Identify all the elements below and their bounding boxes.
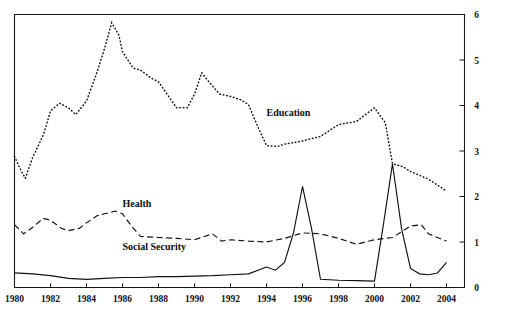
plot-frame bbox=[15, 15, 465, 288]
x-axis-tick-label: 1982 bbox=[41, 294, 60, 304]
x-axis-tick-label: 1996 bbox=[293, 294, 312, 304]
x-axis-tick-label: 1988 bbox=[149, 294, 168, 304]
series-annotations: EducationHealthSocial Security bbox=[123, 107, 311, 253]
x-axis-tick-label: 2000 bbox=[365, 294, 384, 304]
x-axis-tick-label: 1992 bbox=[221, 294, 240, 304]
x-axis-tick-labels: 1980198219841986198819901992199419961998… bbox=[5, 294, 456, 304]
series-lines bbox=[15, 23, 447, 281]
y-axis-tick-label: 1 bbox=[474, 238, 479, 248]
y-axis-tick-label: 0 bbox=[474, 283, 479, 293]
series-label-health: Health bbox=[123, 198, 152, 209]
y-axis-tick-label: 5 bbox=[474, 56, 479, 66]
series-line-education bbox=[15, 23, 447, 191]
y-axis-tick-label: 4 bbox=[474, 101, 479, 111]
y-axis-tick-label: 3 bbox=[474, 147, 479, 157]
x-axis-tick-label: 1984 bbox=[77, 294, 96, 304]
x-axis-tick-label: 2004 bbox=[437, 294, 456, 304]
x-axis-tick-label: 2002 bbox=[401, 294, 420, 304]
x-axis-tick-label: 1994 bbox=[257, 294, 276, 304]
y-axis-tick-label: 2 bbox=[474, 192, 479, 202]
y-axis-tick-labels: 0123456 bbox=[474, 10, 479, 293]
y-axis-tick-label: 6 bbox=[474, 10, 479, 20]
line-chart-svg: 1980198219841986198819901992199419961998… bbox=[0, 0, 507, 315]
series-label-education: Education bbox=[267, 107, 311, 118]
series-line-health bbox=[15, 211, 447, 244]
axes bbox=[15, 15, 465, 288]
x-axis-tick-label: 1986 bbox=[113, 294, 132, 304]
chart-container: 1980198219841986198819901992199419961998… bbox=[0, 0, 507, 315]
series-label-social-security: Social Security bbox=[123, 241, 187, 252]
x-axis-tick-label: 1980 bbox=[5, 294, 24, 304]
series-line-social-security bbox=[15, 164, 447, 281]
x-axis-tick-label: 1998 bbox=[329, 294, 348, 304]
x-axis-tick-label: 1990 bbox=[185, 294, 204, 304]
